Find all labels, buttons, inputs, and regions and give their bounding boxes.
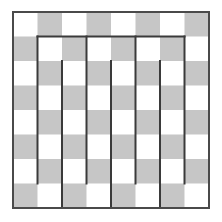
checkerboard-board [0,0,222,222]
light-cell [38,37,63,62]
checkerboard-maze-diagram [0,0,222,222]
dark-cell [13,37,38,62]
dark-cell [111,135,136,160]
light-cell [185,184,210,209]
light-cell [160,61,185,86]
light-cell [111,110,136,135]
light-cell [38,86,63,111]
light-cell [111,12,136,37]
light-cell [62,61,87,86]
light-cell [13,110,38,135]
dark-cell [87,110,112,135]
light-cell [38,184,63,209]
light-cell [160,159,185,184]
dark-cell [38,110,63,135]
dark-cell [62,37,87,62]
dark-cell [13,86,38,111]
dark-cell [160,135,185,160]
dark-cell [185,61,210,86]
light-cell [38,135,63,160]
dark-cell [185,12,210,37]
light-cell [111,159,136,184]
dark-cell [111,86,136,111]
dark-cell [38,159,63,184]
dark-cell [87,12,112,37]
dark-cell [13,184,38,209]
light-cell [62,159,87,184]
light-cell [13,159,38,184]
dark-cell [136,61,161,86]
dark-cell [136,159,161,184]
dark-cell [87,159,112,184]
dark-cell [111,184,136,209]
light-cell [62,110,87,135]
light-cell [87,184,112,209]
light-cell [160,12,185,37]
dark-cell [87,61,112,86]
dark-cell [185,110,210,135]
dark-cell [185,159,210,184]
light-cell [160,110,185,135]
dark-cell [13,135,38,160]
light-cell [13,61,38,86]
light-cell [13,12,38,37]
light-cell [136,37,161,62]
light-cell [136,184,161,209]
dark-cell [62,135,87,160]
dark-cell [160,86,185,111]
light-cell [62,12,87,37]
light-cell [185,86,210,111]
dark-cell [38,12,63,37]
dark-cell [160,37,185,62]
dark-cell [136,12,161,37]
dark-cell [111,37,136,62]
dark-cell [62,184,87,209]
light-cell [111,61,136,86]
light-cell [87,86,112,111]
dark-cell [38,61,63,86]
light-cell [185,37,210,62]
dark-cell [62,86,87,111]
light-cell [136,135,161,160]
light-cell [185,135,210,160]
dark-cell [160,184,185,209]
dark-cell [136,110,161,135]
light-cell [87,37,112,62]
light-cell [136,86,161,111]
light-cell [87,135,112,160]
